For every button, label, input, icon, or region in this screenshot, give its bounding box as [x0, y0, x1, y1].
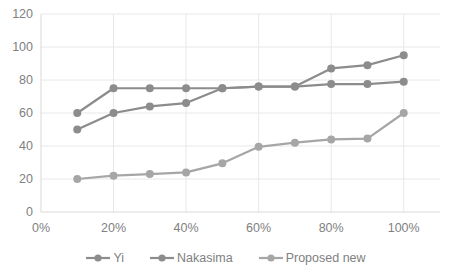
data-point-nakasima-30%	[146, 102, 154, 110]
y-tick-label: 0	[0, 206, 33, 219]
line-chart: 020406080100120 0%20%40%60%80%100% YiNak…	[0, 0, 452, 277]
data-point-yi-20%	[110, 84, 118, 92]
data-point-proposed-new-30%	[146, 170, 154, 178]
legend-label: Nakasima	[177, 252, 233, 265]
legend-item-proposed-new[interactable]: Proposed new	[259, 252, 366, 265]
data-point-nakasima-100%	[400, 78, 408, 86]
legend-item-nakasima[interactable]: Nakasima	[150, 252, 233, 265]
series-lines	[77, 55, 403, 179]
legend-label: Proposed new	[286, 252, 366, 265]
legend-label: Yi	[113, 252, 124, 265]
data-point-nakasima-20%	[110, 109, 118, 117]
data-point-yi-30%	[146, 84, 154, 92]
data-point-nakasima-80%	[327, 80, 335, 88]
y-tick-label: 20	[0, 173, 33, 186]
y-tick-label: 100	[0, 41, 33, 54]
data-point-yi-80%	[327, 64, 335, 72]
legend-marker-icon	[259, 253, 283, 263]
data-point-proposed-new-80%	[327, 135, 335, 143]
data-point-proposed-new-50%	[218, 159, 226, 167]
legend-marker-icon	[86, 253, 110, 263]
legend-marker-icon	[150, 253, 174, 263]
x-tick-label: 80%	[301, 222, 361, 235]
x-tick-label: 20%	[84, 222, 144, 235]
data-point-yi-100%	[400, 51, 408, 59]
data-point-proposed-new-20%	[110, 172, 118, 180]
data-point-markers	[73, 51, 407, 183]
data-point-nakasima-10%	[73, 126, 81, 134]
y-tick-label: 60	[0, 107, 33, 120]
chart-legend: YiNakasimaProposed new	[0, 252, 452, 265]
x-tick-label: 40%	[156, 222, 216, 235]
gridlines	[41, 14, 440, 212]
data-point-proposed-new-70%	[291, 139, 299, 147]
data-point-yi-40%	[182, 84, 190, 92]
y-tick-label: 120	[0, 8, 33, 21]
data-point-nakasima-90%	[363, 80, 371, 88]
legend-item-yi[interactable]: Yi	[86, 252, 124, 265]
data-point-proposed-new-10%	[73, 175, 81, 183]
data-point-yi-10%	[73, 109, 81, 117]
data-point-proposed-new-90%	[363, 135, 371, 143]
data-point-nakasima-50%	[218, 84, 226, 92]
y-tick-label: 80	[0, 74, 33, 87]
x-tick-label: 0%	[11, 222, 71, 235]
data-point-yi-90%	[363, 61, 371, 69]
data-point-proposed-new-40%	[182, 168, 190, 176]
data-point-proposed-new-100%	[400, 109, 408, 117]
x-tick-label: 60%	[229, 222, 289, 235]
data-point-nakasima-70%	[291, 83, 299, 91]
y-tick-label: 40	[0, 140, 33, 153]
data-point-nakasima-60%	[255, 83, 263, 91]
plot-area	[0, 0, 452, 277]
x-tick-label: 100%	[374, 222, 434, 235]
data-point-proposed-new-60%	[255, 143, 263, 151]
data-point-nakasima-40%	[182, 99, 190, 107]
